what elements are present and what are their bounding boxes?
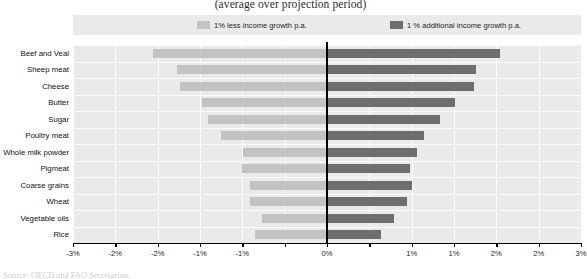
x-axis-tick — [200, 243, 201, 247]
bar-negative — [250, 181, 327, 190]
bar-negative — [180, 82, 327, 91]
bar-negative — [243, 148, 327, 157]
x-axis-tick-label: -2% — [151, 249, 165, 258]
category-label-whole-milk-powder: Whole milk powder — [0, 148, 69, 157]
legend-item-additional-income: 1 % additional income growth p.a. — [390, 21, 521, 30]
x-axis-tick — [242, 243, 243, 247]
category-label-sugar: Sugar — [0, 115, 69, 124]
category-label-rice: Rice — [0, 230, 69, 239]
category-label-pigmeat: Pigmeat — [0, 164, 69, 173]
source-note: Source: OECD and FAO Secretariats. — [3, 270, 131, 279]
x-axis-tick-label: 2% — [491, 249, 502, 258]
x-axis-tick-label: -2% — [109, 249, 123, 258]
bar-negative — [250, 197, 327, 206]
x-axis-tick-label: -1% — [193, 249, 207, 258]
x-axis-tick-label: 1% — [449, 249, 460, 258]
x-axis-tick — [539, 243, 540, 247]
legend-label-less-income: 1% less income growth p.a. — [214, 21, 307, 30]
plot-area — [73, 45, 581, 243]
bar-negative — [262, 214, 327, 223]
bar-negative — [242, 164, 327, 173]
x-axis-tick — [581, 243, 582, 247]
x-axis-tick-label: -1% — [236, 249, 250, 258]
bar-positive — [327, 164, 410, 173]
x-axis-tick-label: 0% — [322, 249, 333, 258]
category-label-coarse-grains: Coarse grains — [0, 181, 69, 190]
bar-positive — [327, 115, 440, 124]
category-label-vegetable-oils: Vegetable oils — [0, 214, 69, 223]
bar-positive — [327, 98, 455, 107]
x-axis-tick-label: -3% — [66, 249, 80, 258]
bar-positive — [327, 82, 474, 91]
legend-swatch-additional-income — [390, 21, 403, 29]
bar-positive — [327, 197, 407, 206]
bar-positive — [327, 49, 500, 58]
x-axis-tick-label: 3% — [576, 249, 587, 258]
bar-negative — [177, 65, 327, 74]
bar-positive — [327, 131, 424, 140]
zero-line — [326, 42, 328, 244]
bar-negative — [202, 98, 327, 107]
x-axis-tick — [412, 243, 413, 247]
x-axis-tick — [496, 243, 497, 247]
bar-negative — [221, 131, 327, 140]
bar-negative — [208, 115, 327, 124]
x-axis-tick — [327, 243, 328, 247]
bar-positive — [327, 230, 381, 239]
bar-positive — [327, 148, 417, 157]
bar-negative — [255, 230, 327, 239]
chart-legend: 1% less income growth p.a. 1 % additiona… — [73, 15, 581, 35]
x-axis-tick — [369, 243, 370, 247]
x-axis-tick — [454, 243, 455, 247]
bar-positive — [327, 181, 412, 190]
category-label-beef-and-veal: Beef and Veal — [0, 49, 69, 58]
x-axis-tick-label: 1% — [406, 249, 417, 258]
category-label-sheep-meat: Sheep meat — [0, 65, 69, 74]
x-axis-tick — [115, 243, 116, 247]
gridline — [581, 45, 582, 243]
category-axis-labels: Beef and VealSheep meatCheeseButterSugar… — [0, 45, 69, 243]
bar-positive — [327, 65, 476, 74]
x-axis-tick — [285, 243, 286, 247]
category-label-wheat: Wheat — [0, 197, 69, 206]
category-label-butter: Butter — [0, 98, 69, 107]
legend-label-additional-income: 1 % additional income growth p.a. — [407, 21, 521, 30]
x-axis-tick — [158, 243, 159, 247]
legend-item-less-income: 1% less income growth p.a. — [197, 21, 307, 30]
x-axis-tick — [73, 243, 74, 247]
bar-negative — [153, 49, 327, 58]
legend-swatch-less-income — [197, 21, 210, 29]
x-axis-tick-label: 2% — [533, 249, 544, 258]
category-label-cheese: Cheese — [0, 82, 69, 91]
category-label-poultry-meat: Poultry meat — [0, 131, 69, 140]
chart-title: (average over projection period) — [0, 0, 581, 10]
bar-positive — [327, 214, 394, 223]
